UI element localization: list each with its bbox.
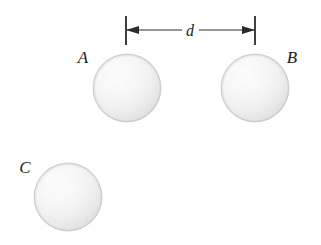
sphere-b-group: B xyxy=(221,48,298,122)
sphere-b-rim xyxy=(221,54,289,122)
dimension-annotation-d: d xyxy=(126,16,255,45)
sphere-c-rim xyxy=(34,163,102,231)
dimension-arrowhead-left xyxy=(126,26,139,34)
dimension-arrowhead-right xyxy=(242,26,255,34)
sphere-c-label: C xyxy=(19,158,31,177)
figure-svg: A B C d xyxy=(0,0,321,245)
sphere-c-group: C xyxy=(19,158,102,231)
sphere-a-label: A xyxy=(77,48,89,67)
dimension-label-d: d xyxy=(186,22,195,39)
physics-figure-canvas: A B C d xyxy=(0,0,321,245)
sphere-b-label: B xyxy=(287,48,298,67)
sphere-a-rim xyxy=(93,54,161,122)
sphere-a-group: A xyxy=(77,48,161,122)
